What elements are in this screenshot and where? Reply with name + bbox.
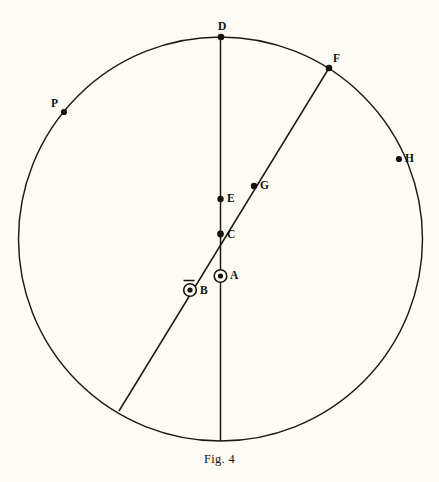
point-label-D: D: [218, 21, 226, 33]
point-marker-C: [217, 231, 224, 238]
point-label-C: C: [227, 229, 235, 241]
point-label-F: F: [333, 53, 340, 65]
point-marker-H: [396, 156, 402, 162]
point-label-P: P: [51, 98, 58, 110]
point-label-H: H: [405, 153, 414, 165]
point-marker-D: [218, 34, 225, 41]
point-marker-A-core: [218, 273, 223, 278]
point-label-A: A: [230, 270, 238, 282]
point-label-E: E: [227, 193, 235, 205]
point-marker-P: [61, 109, 67, 115]
diagonal-chord-line: [119, 68, 329, 411]
circle-diagram: [0, 0, 439, 482]
point-marker-G: [251, 183, 257, 189]
point-marker-F: [326, 65, 333, 72]
point-marker-E: [217, 196, 223, 202]
point-label-G: G: [260, 180, 269, 192]
point-marker-B-core: [187, 287, 192, 292]
figure-container: D F P H G E C A B Fig. 4: [0, 0, 439, 482]
figure-caption: Fig. 4: [0, 452, 439, 467]
point-label-B: B: [200, 285, 208, 297]
